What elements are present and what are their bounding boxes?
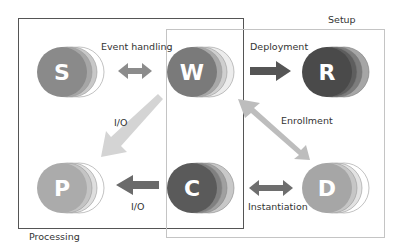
node-p[interactable]: P [37, 163, 104, 213]
processing-group-label: Processing [29, 231, 80, 242]
edge-deployment: Deployment [250, 41, 308, 81]
edge-label-io-bottom: I/O [131, 201, 144, 212]
node-r-letter: R [319, 60, 336, 85]
edge-label-event-handling: Event handling [101, 41, 172, 52]
node-s[interactable]: S [37, 47, 104, 97]
edge-io-w-to-p: I/O [101, 94, 163, 157]
node-d[interactable]: D [302, 163, 369, 213]
node-r[interactable]: R [302, 47, 369, 97]
node-d-letter: D [318, 176, 336, 201]
node-c-letter: C [184, 176, 200, 201]
node-w-letter: W [180, 60, 204, 85]
edge-label-deployment: Deployment [250, 41, 308, 52]
diagram-canvas: Setup Processing Event handling Deployme… [0, 0, 401, 252]
edge-label-instantiation: Instantiation [248, 201, 308, 212]
node-w[interactable]: W [167, 47, 234, 97]
node-p-letter: P [54, 176, 70, 201]
setup-group-label: Setup [328, 14, 356, 25]
edge-instantiation: Instantiation [248, 180, 308, 212]
edge-label-enrollment: Enrollment [281, 115, 333, 126]
edge-enrollment: Enrollment [238, 99, 333, 160]
edge-event-handling: Event handling [101, 41, 172, 79]
node-s-letter: S [54, 60, 70, 85]
node-c[interactable]: C [167, 163, 234, 213]
edge-label-io-top: I/O [114, 117, 127, 128]
edge-io-c-to-p: I/O [116, 175, 159, 212]
